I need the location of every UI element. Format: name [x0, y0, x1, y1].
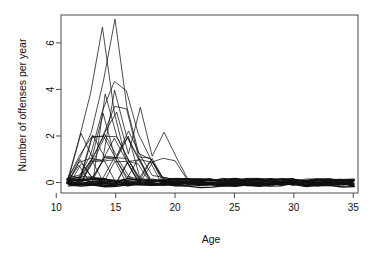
- x-tick-label: 20: [169, 202, 181, 213]
- x-tick-label: 25: [229, 202, 241, 213]
- y-tick-label: 4: [46, 86, 57, 92]
- x-tick-label: 10: [51, 202, 63, 213]
- x-tick-label: 35: [348, 202, 360, 213]
- x-tick-label: 30: [288, 202, 300, 213]
- x-tick-label: 15: [110, 202, 122, 213]
- y-tick-label: 0: [46, 179, 57, 185]
- y-axis-title: Number of offenses per year: [16, 38, 28, 171]
- plot-background: [0, 0, 378, 257]
- chart-figure: 101520253035 0246 Age Number of offenses…: [0, 0, 378, 257]
- y-tick-label: 2: [46, 133, 57, 139]
- x-axis-title: Age: [202, 233, 221, 245]
- spaghetti-plot: 101520253035 0246 Age Number of offenses…: [0, 0, 378, 257]
- y-tick-label: 6: [46, 40, 57, 46]
